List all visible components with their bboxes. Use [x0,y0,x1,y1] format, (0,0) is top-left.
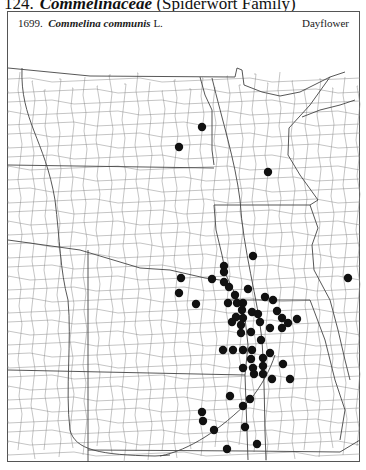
county-boundaries [8,72,360,462]
occurrence-dot [264,168,272,176]
occurrence-dot [254,310,262,318]
occurrence-dot [225,283,233,291]
occurrence-dot [237,321,245,329]
occurrence-dot [259,370,267,378]
occurrence-dot [247,355,255,363]
occurrence-dot [344,274,352,282]
occurrence-dot [208,275,216,283]
occurrence-dot [266,349,274,357]
occurrence-dot [239,402,247,410]
occurrence-dot [241,423,249,431]
occurrence-dot [286,375,294,383]
occurrence-dot [237,329,245,337]
occurrence-dot [269,296,277,304]
occurrence-dot [273,307,281,315]
occurrence-dot [259,354,267,362]
occurrence-dot [266,324,274,332]
occurrence-dot [249,252,257,260]
occurrence-dot [244,285,252,293]
occurrence-dot [268,375,276,383]
occurrence-dot [278,324,286,332]
occurrence-dot [239,364,247,372]
occurrence-dots [175,123,352,453]
occurrence-dot [199,417,207,425]
occurrence-dot [192,300,200,308]
occurrence-dot [250,370,258,378]
state-boundaries [8,68,360,462]
occurrence-dot [223,445,231,453]
occurrence-dot [210,426,218,434]
occurrence-dot [239,346,247,354]
occurrence-dot [261,293,269,301]
occurrence-dot [198,123,206,131]
distribution-map [0,0,366,470]
occurrence-dot [175,289,183,297]
occurrence-dot [224,299,232,307]
occurrence-dot [175,143,183,151]
occurrence-dot [248,346,256,354]
occurrence-dot [247,328,255,336]
occurrence-dot [231,291,239,299]
occurrence-dot [177,274,185,282]
occurrence-dot [246,395,254,403]
occurrence-dot [253,440,261,448]
occurrence-dot [256,318,264,326]
occurrence-dot [279,360,287,368]
occurrence-dot [229,346,237,354]
occurrence-dot [198,408,206,416]
occurrence-dot [228,318,236,326]
occurrence-dot [238,306,246,314]
occurrence-dot [219,346,227,354]
occurrence-dot [220,268,228,276]
occurrence-dot [293,315,301,323]
occurrence-dot [259,362,267,370]
occurrence-dot [226,392,234,400]
occurrence-dot [257,336,265,344]
